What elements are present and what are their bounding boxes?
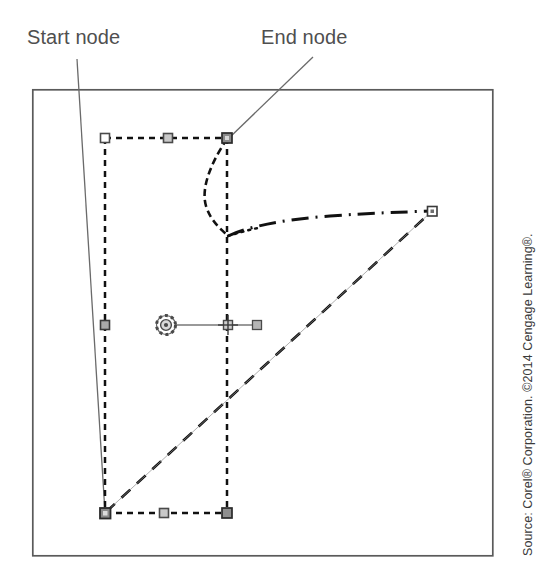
node-handle-far-right-inner	[431, 210, 435, 214]
node-handle-top-mid[interactable]	[164, 134, 173, 143]
dash-dot-curve-segment[interactable]	[228, 211, 432, 236]
node-handle-top-right-inner	[225, 136, 229, 140]
node-handle-left-mid[interactable]	[101, 321, 110, 330]
annotation-label-start-node: Start node	[27, 27, 120, 47]
illustration-figure: Start node End node	[0, 0, 547, 582]
node-handle-bottom-right[interactable]	[222, 508, 232, 518]
rosette-core-icon	[164, 323, 168, 327]
illustration-canvas	[0, 0, 547, 582]
annotation-label-end-node: End node	[261, 27, 347, 47]
node-handle-center-cross[interactable]	[218, 315, 238, 335]
leader-line-start-node	[77, 59, 105, 513]
node-handle-top-left[interactable]	[101, 134, 110, 143]
node-handle-bottom-left-inner	[103, 511, 108, 516]
source-caption: Source: Corel® Corporation. ©2014 Cengag…	[521, 233, 535, 556]
node-handle-bottom-mid[interactable]	[160, 509, 169, 518]
rotation-control-handle[interactable]	[157, 316, 262, 335]
node-handles[interactable]	[100, 133, 437, 519]
bezier-curve-segment[interactable]	[205, 139, 228, 236]
control-handle-end-square[interactable]	[253, 321, 262, 330]
leader-line-end-node	[228, 57, 313, 139]
diagonal-guide-line	[106, 212, 431, 512]
